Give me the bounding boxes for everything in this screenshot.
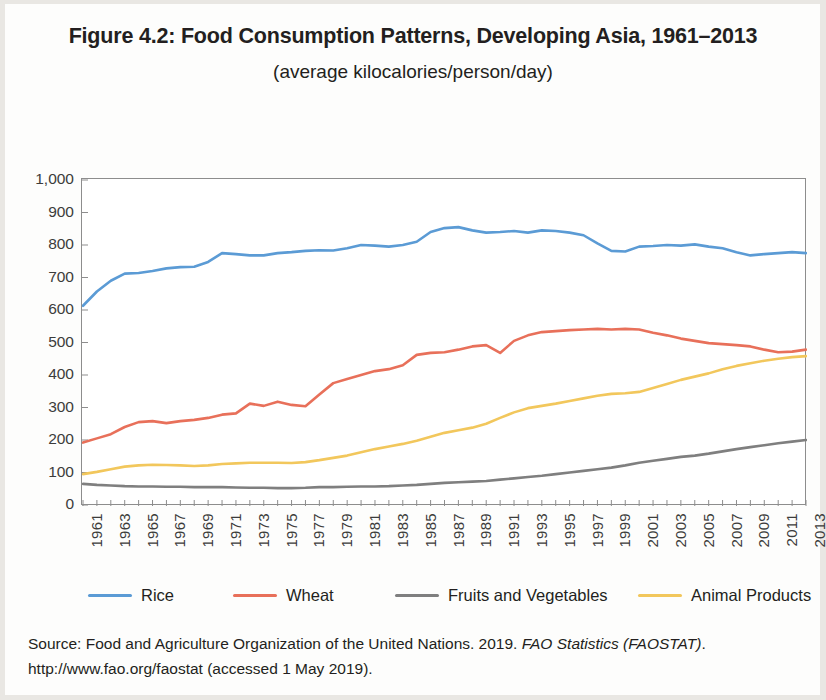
- line-chart-svg: [82, 179, 807, 506]
- legend-swatch-icon: [233, 594, 277, 597]
- x-axis-tick-label: 1981: [366, 513, 383, 548]
- x-axis-labels: 1961196319651967196919711973197519771979…: [81, 509, 806, 571]
- x-axis-tick-label: 1977: [310, 513, 327, 548]
- x-axis-tick-label: 1967: [171, 513, 188, 548]
- legend-swatch-icon: [638, 594, 682, 597]
- x-axis-tick-label: 1975: [283, 513, 300, 548]
- x-axis-tick-label: 2011: [783, 513, 800, 546]
- source-publication-title: FAO Statistics (FAOSTAT): [522, 635, 702, 652]
- x-axis-tick-label: 1991: [505, 513, 522, 548]
- legend-label: Wheat: [286, 586, 334, 605]
- y-axis-tick-label: 500: [0, 333, 74, 351]
- x-axis-tick-label: 1971: [227, 513, 244, 548]
- chart-legend: RiceWheatFruits and VegetablesAnimal Pro…: [0, 586, 826, 612]
- x-axis-tick-label: 1969: [199, 513, 216, 548]
- x-axis-tick-label: 1989: [477, 513, 494, 548]
- x-axis-tick-label: 1987: [450, 513, 467, 548]
- source-line1-prefix: Source: Food and Agriculture Organizatio…: [28, 635, 522, 652]
- source-note: Source: Food and Agriculture Organizatio…: [28, 631, 813, 681]
- x-axis-tick-label: 2007: [728, 513, 745, 548]
- x-axis-tick-label: 2003: [672, 513, 689, 548]
- x-axis-tick-label: 1999: [616, 513, 633, 548]
- scan-edge-bottom: [0, 695, 826, 700]
- y-axis-tick-label: 1,000: [0, 170, 74, 188]
- series-line-rice: [83, 227, 806, 306]
- y-axis-tick-label: 600: [0, 300, 74, 318]
- y-axis-tick-label: 0: [0, 495, 74, 513]
- legend-label: Animal Products: [691, 586, 811, 605]
- legend-item-animal-products: Animal Products: [638, 586, 811, 605]
- x-axis-tick-label: 2001: [644, 513, 661, 548]
- x-axis-tick-label: 1993: [533, 513, 550, 548]
- y-axis-tick-label: 900: [0, 203, 74, 221]
- series-line-fruits-and-vegetables: [83, 440, 806, 488]
- x-axis-tick-label: 1983: [394, 513, 411, 548]
- x-axis-tick-label: 1995: [561, 513, 578, 548]
- legend-swatch-icon: [88, 594, 132, 597]
- title-block: Figure 4.2: Food Consumption Patterns, D…: [0, 22, 826, 85]
- x-axis-tick-label: 1997: [589, 513, 606, 548]
- scan-edge-top: [0, 0, 826, 4]
- legend-label: Fruits and Vegetables: [448, 586, 608, 605]
- chart-area: 01002003004005006007008009001,000 196119…: [0, 160, 826, 520]
- x-axis-tick-label: 2013: [811, 513, 826, 548]
- figure-subtitle: (average kilocalories/person/day): [0, 58, 826, 85]
- source-line2: http://www.fao.org/faostat (accessed 1 M…: [28, 660, 373, 677]
- x-axis-tick-label: 1979: [338, 513, 355, 548]
- x-axis-tick-label: 1965: [144, 513, 161, 548]
- legend-item-wheat: Wheat: [233, 586, 334, 605]
- series-line-wheat: [83, 329, 806, 443]
- y-axis-tick-label: 400: [0, 365, 74, 383]
- legend-item-fruits-and-vegetables: Fruits and Vegetables: [395, 586, 608, 605]
- y-axis-labels: 01002003004005006007008009001,000: [0, 160, 74, 505]
- legend-item-rice: Rice: [88, 586, 174, 605]
- plot-frame: [81, 178, 806, 505]
- y-axis-tick-label: 800: [0, 235, 74, 253]
- source-line1-suffix: .: [701, 635, 705, 652]
- x-axis-tick-label: 2005: [700, 513, 717, 548]
- figure-title: Figure 4.2: Food Consumption Patterns, D…: [68, 22, 758, 51]
- y-axis-tick-label: 700: [0, 268, 74, 286]
- x-axis-tick-label: 1961: [88, 513, 105, 548]
- x-axis-tick-label: 2009: [755, 513, 772, 548]
- figure-page: Figure 4.2: Food Consumption Patterns, D…: [0, 0, 826, 700]
- legend-swatch-icon: [395, 594, 439, 597]
- x-axis-tick-label: 1985: [422, 513, 439, 548]
- legend-label: Rice: [141, 586, 174, 605]
- x-axis-tick-label: 1963: [116, 513, 133, 548]
- y-axis-tick-label: 300: [0, 398, 74, 416]
- y-axis-tick-label: 100: [0, 463, 74, 481]
- y-axis-tick-label: 200: [0, 430, 74, 448]
- x-axis-tick-label: 1973: [255, 513, 272, 548]
